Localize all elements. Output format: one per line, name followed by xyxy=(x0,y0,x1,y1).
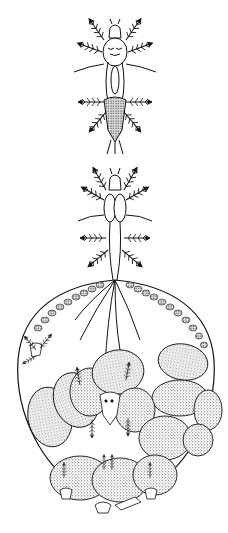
top-specimen xyxy=(74,16,156,154)
scientific-illustration xyxy=(0,0,228,533)
bottom-specimen xyxy=(18,165,222,513)
illustration-canvas xyxy=(0,0,228,533)
